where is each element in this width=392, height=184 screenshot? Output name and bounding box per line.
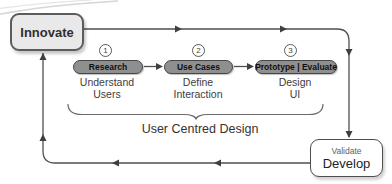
develop-label: Develop <box>323 157 371 171</box>
arrowhead-bottom-left-1 <box>214 160 221 167</box>
validate-develop-box: Validate Develop <box>310 139 383 177</box>
validate-label: Validate <box>331 146 361 157</box>
use-cases-pill: Use Cases <box>164 60 233 74</box>
user-centred-design-label: User Centred Design <box>100 122 300 136</box>
arrowhead-left-up-1 <box>40 134 47 141</box>
arrowhead-bottom-left-2 <box>112 160 119 167</box>
research-pill: Research <box>73 60 143 74</box>
research-sublabel-line1: Understand <box>57 77 157 89</box>
arrowhead-right-down-2 <box>346 131 353 138</box>
arrowhead-left-up-2 <box>40 53 47 60</box>
arrowhead-right-down-1 <box>346 49 353 56</box>
arrowhead-top-right-1 <box>175 26 182 33</box>
research-sublabel-line2: Users <box>57 89 157 101</box>
prototype-evaluate-pill: Prototype | Evaluate <box>255 60 337 74</box>
arrowhead-top-right-2 <box>280 26 287 33</box>
prototype-sublabel-line1: Design <box>245 77 345 89</box>
prototype-sublabel-line2: UI <box>245 89 345 101</box>
use-cases-sublabel-line1: Define <box>148 77 248 89</box>
innovate-box: Innovate <box>10 13 84 51</box>
step-number-1: 1 <box>99 44 112 57</box>
use-cases-sublabel: Define Interaction <box>148 77 248 100</box>
ucd-process-diagram: Innovate 1 2 3 Research Use Cases Protot… <box>0 0 392 184</box>
step-number-2: 2 <box>192 44 205 57</box>
prototype-sublabel: Design UI <box>245 77 345 100</box>
arrowhead-step-1 <box>156 63 163 70</box>
ucd-brace <box>68 104 323 120</box>
use-cases-sublabel-line2: Interaction <box>148 89 248 101</box>
step-number-3: 3 <box>284 44 297 57</box>
arrowhead-step-2 <box>247 63 254 70</box>
innovate-label: Innovate <box>20 25 73 40</box>
research-sublabel: Understand Users <box>57 77 157 100</box>
